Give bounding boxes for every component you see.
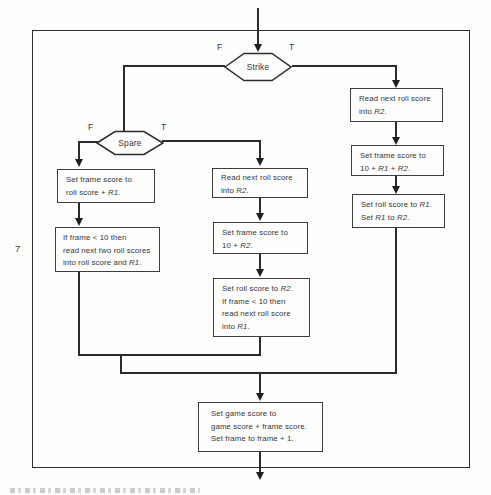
connector-mid-2 (259, 254, 261, 270)
process-box-strike-read-r2: Read next roll scoreinto R2. (350, 88, 443, 122)
arrowhead-strike-true (392, 80, 400, 88)
connector-left-down (78, 272, 80, 356)
process-box-open-frame-score: Set frame score toroll score + R1. (57, 169, 155, 203)
connector-right-1 (395, 122, 397, 138)
arrowhead-entry (254, 44, 262, 52)
arrowhead-final (256, 393, 264, 401)
connector-final (259, 372, 261, 394)
strike-label: Strike (224, 52, 292, 82)
decision-spare: Spare (96, 130, 164, 156)
connector-mid-1 (259, 198, 261, 214)
process-box-spare-frame-score: Set frame score to10 + R2. (213, 222, 308, 254)
connector-right-down (395, 228, 397, 374)
decision-strike: Strike (224, 52, 292, 82)
page-number: 7 (15, 243, 20, 254)
connector-spare-true-v (259, 140, 261, 159)
arrowhead-exit (256, 472, 264, 480)
connector-strike-true-h (292, 65, 397, 67)
arrowhead-mid-2 (256, 269, 264, 277)
process-box-open-read-two: If frame < 10 thenread next two roll sco… (55, 227, 160, 272)
process-box-spare-read-r2: Read next roll scoreinto R2. (212, 168, 308, 198)
spare-true-label: T (161, 122, 166, 132)
connector-strike-false-h (123, 65, 225, 67)
connector-left-1 (78, 203, 80, 219)
connector-merge-line-1 (78, 354, 261, 356)
arrowhead-left-1 (75, 218, 83, 226)
process-box-strike-roll-score: Set roll score to R1.Set R1 to R2. (352, 194, 445, 228)
strike-false-label: F (217, 42, 222, 52)
process-box-spare-roll-score: Set roll score to R2.If frame < 10 thenr… (213, 278, 310, 337)
connector-entry (257, 8, 259, 46)
connector-spare-true-h (162, 140, 261, 142)
connector-merge-drop (120, 354, 122, 374)
arrowhead-mid-1 (256, 213, 264, 221)
connector-spare-false-v (78, 141, 80, 160)
spare-false-label: F (88, 122, 93, 132)
spare-label: Spare (96, 130, 164, 156)
process-box-game-score: Set game score togame score + frame scor… (198, 402, 323, 452)
connector-strike-false-v (123, 65, 125, 131)
strike-true-label: T (289, 42, 294, 52)
connector-spare-false-h (78, 141, 98, 143)
arrowhead-spare-false (75, 159, 83, 167)
arrowhead-right-1 (392, 137, 400, 145)
flowchart-page: 7 Strike F T Read next roll scoreinto R2… (0, 0, 491, 495)
arrowhead-spare-true (256, 158, 264, 166)
process-box-strike-frame-score: Set frame score to10 + R1 + R2. (351, 145, 444, 176)
connector-strike-true-v (395, 65, 397, 81)
cropped-caption-fragment (10, 488, 200, 493)
arrowhead-right-2 (392, 186, 400, 194)
connector-exit (259, 452, 261, 473)
